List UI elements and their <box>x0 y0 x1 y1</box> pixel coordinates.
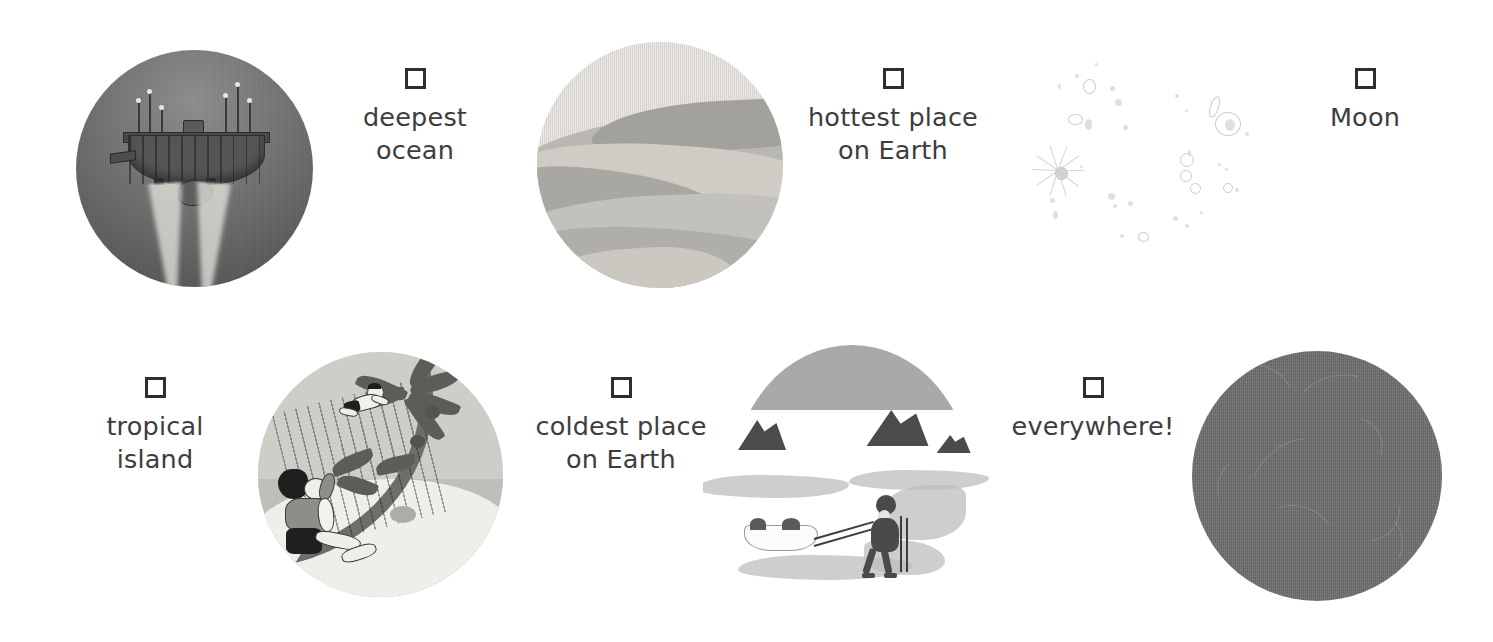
moon-crater <box>1058 84 1061 89</box>
moon-crater <box>1173 216 1178 221</box>
explorer-boot <box>862 573 875 578</box>
moon-crater <box>1075 74 1079 78</box>
lounger-hair <box>278 469 308 499</box>
checklist-item-deepest-ocean[interactable]: deepest ocean <box>320 68 510 166</box>
moon-crater <box>1110 86 1115 91</box>
illustration-gray-planet <box>1192 351 1442 601</box>
moon-crater <box>1235 188 1239 192</box>
moon-crater <box>1218 163 1221 166</box>
figure-polar-explorer <box>861 495 913 590</box>
figure-climber <box>339 384 399 428</box>
checkbox-deepest-ocean[interactable] <box>405 68 426 89</box>
moon-crater <box>1080 165 1083 168</box>
illustration-moon-surface <box>1030 48 1280 303</box>
checkbox-hottest-place-on-earth[interactable] <box>883 68 904 89</box>
climber-hair <box>368 383 381 389</box>
sled-cargo <box>782 518 800 530</box>
moon-crater <box>1083 79 1096 94</box>
moon-crater <box>1185 224 1189 228</box>
checklist-item-moon[interactable]: Moon <box>1290 68 1440 134</box>
checkbox-tropical-island[interactable] <box>145 377 166 398</box>
moon-crater <box>1200 211 1203 214</box>
submersible-mast <box>149 93 151 137</box>
moon-crater <box>1050 198 1055 203</box>
explorer-boot <box>884 573 897 578</box>
explorer-leg <box>862 548 877 575</box>
submersible-hull <box>128 135 265 184</box>
ski-pole <box>906 518 908 572</box>
coconut <box>425 406 440 419</box>
illustration-desert-dunes <box>537 42 783 288</box>
checklist-item-tropical-island[interactable]: tropical island <box>75 377 235 475</box>
label-deepest-ocean: deepest ocean <box>320 101 510 166</box>
label-tropical-island: tropical island <box>75 410 235 475</box>
ice-shadow-band <box>703 475 849 498</box>
moon-crater <box>1128 201 1133 206</box>
moon-crater <box>1108 193 1115 200</box>
illustration-polar-explorer <box>703 345 995 595</box>
moon-crater <box>1053 211 1058 219</box>
hull-ribs <box>129 136 264 183</box>
checklist-item-hottest-place-on-earth[interactable]: hottest place on Earth <box>793 68 993 166</box>
moon-crater <box>1185 109 1188 112</box>
moon-crater <box>1120 234 1124 238</box>
explorer-body <box>871 518 899 552</box>
moon-crater <box>1175 94 1179 98</box>
moon-crater <box>1123 125 1128 130</box>
label-hottest-place-on-earth: hottest place on Earth <box>793 101 993 166</box>
illustration-deep-sea-submersible <box>76 50 313 287</box>
checkbox-moon[interactable] <box>1355 68 1376 89</box>
crater-ray <box>1031 169 1057 171</box>
label-everywhere: everywhere! <box>1000 410 1186 443</box>
moon-crater <box>1180 170 1192 182</box>
moon-crater <box>1180 153 1194 167</box>
moon-crater <box>1113 204 1117 208</box>
figure-lounger <box>278 465 396 575</box>
moon-crater <box>1115 99 1122 106</box>
ski-pole <box>900 516 902 572</box>
crater-center <box>1056 168 1067 179</box>
moon-crater <box>1223 183 1233 193</box>
submersible-mast <box>237 86 239 134</box>
moon-crater <box>1245 132 1249 136</box>
checkbox-coldest-place-on-earth[interactable] <box>611 377 632 398</box>
moon-ray-crater <box>1043 155 1073 185</box>
moon-crater <box>1085 119 1092 130</box>
moon-crater <box>1190 183 1201 194</box>
moon-crater <box>1095 63 1098 66</box>
checklist-item-coldest-place-on-earth[interactable]: coldest place on Earth <box>522 377 720 475</box>
label-coldest-place-on-earth: coldest place on Earth <box>522 410 720 475</box>
label-moon: Moon <box>1290 101 1440 134</box>
sled-cargo <box>750 518 766 530</box>
checklist-item-everywhere[interactable]: everywhere! <box>1000 377 1186 443</box>
moon-crater <box>1068 114 1083 125</box>
moon-crater <box>1138 232 1149 242</box>
moon-crater <box>1225 168 1228 171</box>
illustration-tropical-island <box>258 352 503 597</box>
moon-crater <box>1188 150 1191 157</box>
checklist-page: deepest ocean hottest place on Earth <box>0 0 1493 642</box>
checkbox-everywhere[interactable] <box>1083 377 1104 398</box>
